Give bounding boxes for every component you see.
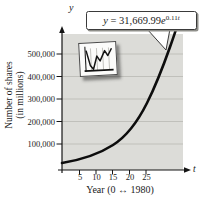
equation-equals: = xyxy=(108,15,119,26)
x-tick-label-20: 20 xyxy=(121,173,139,182)
x-tick-label-25: 25 xyxy=(138,173,156,182)
equation-coefficient: 31,669.99 xyxy=(119,15,161,26)
equation-exponent-variable: t xyxy=(178,14,180,22)
x-tick-label-5: 5 xyxy=(71,173,89,182)
t-axis-symbol: t xyxy=(193,164,196,174)
x-tick-label-10: 10 xyxy=(88,173,106,182)
exponential-growth-chart: y = 31,669.99e0.11t y t Number of shares… xyxy=(0,0,201,213)
x-axis-arrow xyxy=(184,167,191,173)
y-tick-label-400000: 400,000 xyxy=(11,73,55,82)
equation-exponent-number: 0.11 xyxy=(166,14,178,22)
x-tick-label-15: 15 xyxy=(104,173,122,182)
x-axis-title: Year (0 ↔ 1980) xyxy=(62,184,178,195)
y-axis-arrow xyxy=(59,26,65,33)
y-tick-marks xyxy=(57,54,63,144)
y-tick-label-200000: 200,000 xyxy=(11,118,55,127)
y-tick-label-100000: 100,000 xyxy=(11,140,55,149)
stock-chart-inset-icon xyxy=(78,41,118,77)
y-tick-label-500000: 500,000 xyxy=(11,50,55,59)
y-tick-label-300000: 300,000 xyxy=(11,95,55,104)
y-axis-symbol: y xyxy=(69,3,73,13)
mini-chart-icon xyxy=(79,42,117,76)
equation-callout: y = 31,669.99e0.11t xyxy=(86,11,197,30)
